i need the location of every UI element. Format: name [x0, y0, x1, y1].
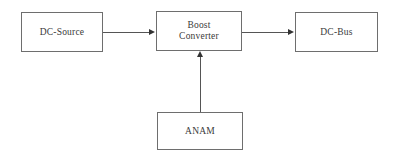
connector-line — [103, 32, 150, 33]
block-dc-bus[interactable]: DC-Bus — [295, 12, 378, 52]
block-anam-label: ANAM — [185, 126, 215, 137]
connector-line — [200, 57, 201, 112]
block-boost-converter-label: Boost Converter — [179, 20, 219, 42]
block-dc-source[interactable]: DC-Source — [21, 12, 103, 52]
block-dc-source-label: DC-Source — [40, 27, 85, 38]
arrow-right-icon — [149, 29, 155, 35]
block-boost-converter[interactable]: Boost Converter — [156, 11, 242, 51]
connector-line — [242, 32, 289, 33]
arrow-up-icon — [197, 51, 203, 57]
block-anam[interactable]: ANAM — [157, 112, 243, 150]
diagram-canvas: DC-Source Boost Converter DC-Bus ANAM — [0, 0, 399, 161]
arrow-right-icon — [288, 29, 294, 35]
block-dc-bus-label: DC-Bus — [320, 27, 352, 38]
